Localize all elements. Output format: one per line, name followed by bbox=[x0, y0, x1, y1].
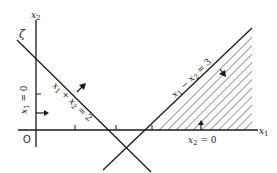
lp-feasibility-diagram: ζ x2 x1 O x1 = 0 x1 + x2 = 2 x1 − x2 = 3… bbox=[0, 0, 277, 173]
corner-mark: ζ bbox=[19, 28, 26, 41]
x2-axis-label: x2 bbox=[31, 10, 41, 22]
origin-label: O bbox=[23, 134, 31, 145]
label-x2-eq-0: x2 = 0 bbox=[188, 135, 217, 147]
arrow-icon-x1-eq-0 bbox=[36, 110, 49, 116]
arrow-icon-x1-plus-x2 bbox=[77, 83, 86, 92]
label-x1-eq-0: x1 = 0 bbox=[19, 85, 31, 114]
label-x1-plus-x2-eq-2: x1 + x2 = 2 bbox=[49, 80, 94, 124]
shaded-region bbox=[150, 28, 254, 132]
x1-axis-label: x1 bbox=[259, 126, 269, 138]
